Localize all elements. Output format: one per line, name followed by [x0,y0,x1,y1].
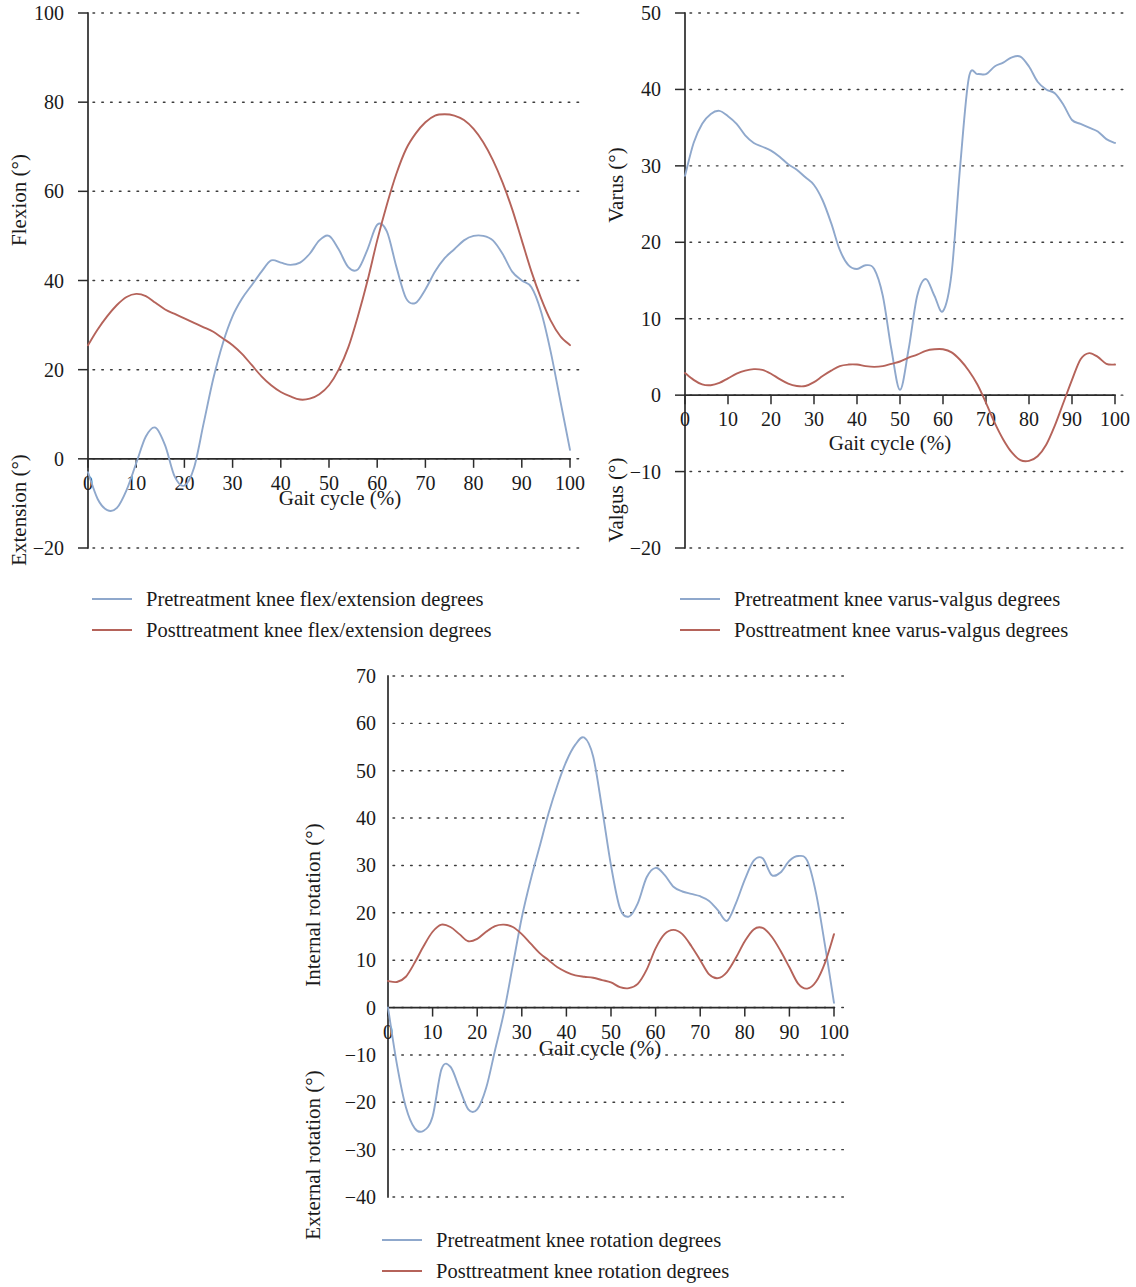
legend-item: Posttreatment knee flex/extension degree… [92,617,492,643]
x-tick-label: 70 [690,1021,710,1043]
rotation-chart-svg: −40−30−20−100102030405060700102030405060… [280,655,880,1225]
y-tick-label: −30 [345,1139,376,1161]
y-tick-label: 70 [356,665,376,687]
y-tick-label: −20 [345,1091,376,1113]
y-tick-label: −40 [345,1186,376,1208]
legend-label-pretreatment: Pretreatment knee varus-valgus degrees [734,586,1060,612]
y-tick-label: 10 [641,308,661,330]
legend-item: Pretreatment knee flex/extension degrees [92,586,492,612]
x-tick-label: 10 [718,408,738,430]
x-tick-label: 100 [1100,408,1130,430]
y-tick-label: 80 [44,91,64,113]
legend-swatch-posttreatment [382,1270,422,1272]
x-tick-label: 80 [735,1021,755,1043]
y-tick-label: 40 [356,807,376,829]
y-tick-label: 30 [641,155,661,177]
x-tick-label: 0 [680,408,690,430]
x-tick-label: 20 [467,1021,487,1043]
series-line [88,114,570,399]
y-axis-title-negative: Extension (°) [7,454,31,566]
y-tick-label: 0 [366,997,376,1019]
x-tick-label: 40 [847,408,867,430]
legend-label-posttreatment: Posttreatment knee flex/extension degree… [146,617,492,643]
y-tick-label: 60 [44,180,64,202]
series-line [388,924,834,988]
x-tick-label: 90 [779,1021,799,1043]
varus-valgus-chart-svg: −20−10010203040500102030405060708090100V… [590,0,1136,600]
x-tick-label: 100 [819,1021,849,1043]
series-line [388,737,834,1132]
legend-swatch-posttreatment [680,629,720,631]
legend-swatch-pretreatment [92,598,132,600]
y-axis-title-negative: External rotation (°) [301,1070,325,1239]
x-tick-label: 30 [804,408,824,430]
x-tick-label: 80 [464,472,484,494]
x-axis-title: Gait cycle (%) [539,1036,661,1060]
legend-swatch-pretreatment [382,1239,422,1241]
y-tick-label: 40 [641,78,661,100]
y-tick-label: 20 [356,902,376,924]
legend-item: Posttreatment knee varus-valgus degrees [680,617,1068,643]
y-tick-label: 30 [356,854,376,876]
y-tick-label: 50 [641,2,661,24]
legend-label-posttreatment: Posttreatment knee varus-valgus degrees [734,617,1068,643]
x-tick-label: 30 [512,1021,532,1043]
y-tick-label: 0 [651,384,661,406]
y-tick-label: 60 [356,712,376,734]
x-tick-label: 70 [415,472,435,494]
chart-panel-varus-valgus: −20−10010203040500102030405060708090100V… [590,0,1136,660]
y-tick-label: 50 [356,760,376,782]
y-axis-title-positive: Internal rotation (°) [301,823,325,987]
y-axis-title-positive: Varus (°) [604,147,628,222]
x-tick-label: 10 [423,1021,443,1043]
y-tick-label: −10 [630,461,661,483]
y-tick-label: −20 [33,537,64,559]
chart-panel-rotation: −40−30−20−100102030405060700102030405060… [280,655,880,1287]
y-tick-label: 20 [44,359,64,381]
x-tick-label: 50 [890,408,910,430]
chart-panel-flexion: −200204060801000102030405060708090100Fle… [0,0,600,660]
y-tick-label: 0 [54,448,64,470]
legend-swatch-pretreatment [680,598,720,600]
legend-swatch-posttreatment [92,629,132,631]
y-tick-label: 100 [34,2,64,24]
x-tick-label: 30 [223,472,243,494]
legend-rotation: Pretreatment knee rotation degrees Postt… [382,1227,729,1287]
y-tick-label: 20 [641,231,661,253]
x-tick-label: 60 [933,408,953,430]
y-axis-title-positive: Flexion (°) [7,154,31,246]
x-tick-label: 20 [761,408,781,430]
legend-label-posttreatment: Posttreatment knee rotation degrees [436,1258,729,1284]
legend-label-pretreatment: Pretreatment knee flex/extension degrees [146,586,484,612]
legend-item: Posttreatment knee rotation degrees [382,1258,729,1284]
series-line [685,56,1115,390]
x-tick-label: 90 [1062,408,1082,430]
y-axis-title-negative: Valgus (°) [604,458,628,543]
x-tick-label: 100 [555,472,585,494]
x-axis-title: Gait cycle (%) [829,431,951,455]
y-tick-label: 10 [356,949,376,971]
legend-item: Pretreatment knee rotation degrees [382,1227,729,1253]
y-tick-label: −10 [345,1044,376,1066]
flexion-chart-svg: −200204060801000102030405060708090100Fle… [0,0,600,600]
y-tick-label: −20 [630,537,661,559]
x-tick-label: 80 [1019,408,1039,430]
legend-label-pretreatment: Pretreatment knee rotation degrees [436,1227,721,1253]
legend-item: Pretreatment knee varus-valgus degrees [680,586,1068,612]
x-tick-label: 90 [512,472,532,494]
legend-flexion: Pretreatment knee flex/extension degrees… [92,586,492,648]
y-tick-label: 40 [44,270,64,292]
legend-varus-valgus: Pretreatment knee varus-valgus degrees P… [680,586,1068,648]
x-axis-title: Gait cycle (%) [279,486,401,510]
